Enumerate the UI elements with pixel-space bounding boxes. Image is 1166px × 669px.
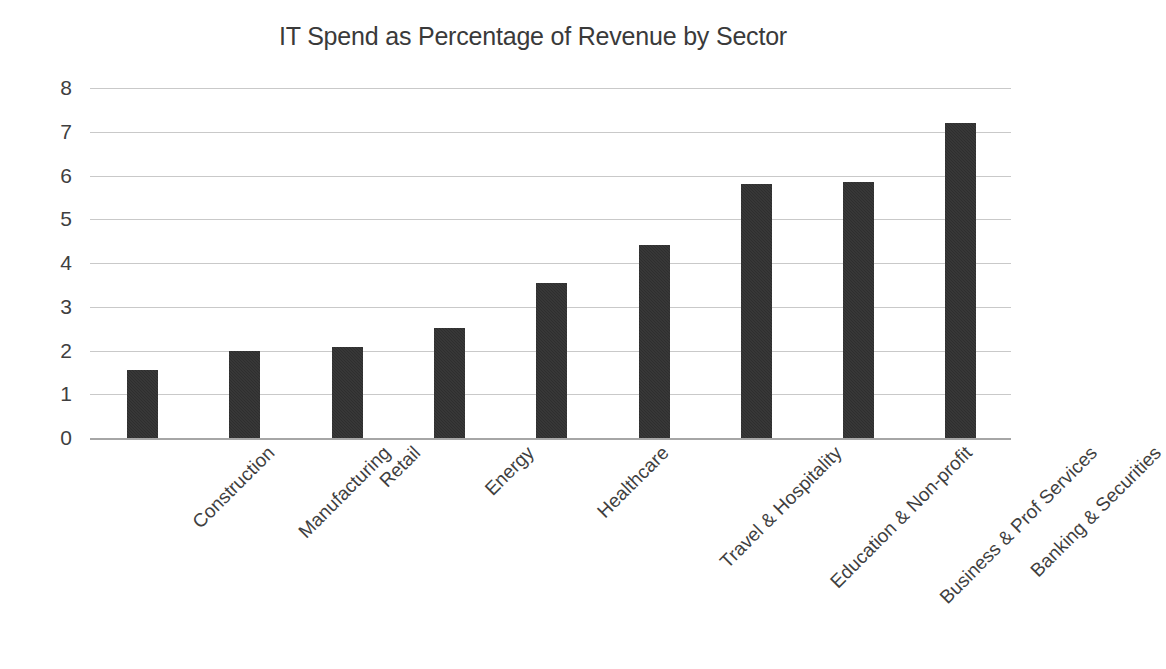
x-axis-line: [90, 438, 1011, 440]
gridline: [90, 88, 1011, 89]
x-axis-tick-label: Construction: [188, 442, 279, 533]
bar[interactable]: [741, 184, 772, 438]
y-axis-tick-label: 0: [42, 426, 72, 450]
y-axis-tick-label: 7: [42, 120, 72, 144]
bar[interactable]: [843, 182, 874, 438]
bar[interactable]: [434, 328, 465, 438]
bar[interactable]: [536, 283, 567, 438]
gridline: [90, 132, 1011, 133]
y-axis-tick-label: 5: [42, 207, 72, 231]
bar[interactable]: [127, 370, 158, 438]
bar[interactable]: [229, 351, 260, 439]
x-axis-tick-label: Travel & Hospitality: [716, 442, 847, 573]
bar[interactable]: [639, 245, 670, 438]
x-axis-tick-label: Energy: [481, 442, 539, 500]
x-axis-tick-label: Education & Non-profit: [826, 442, 977, 593]
y-axis-tick-label: 8: [42, 76, 72, 100]
chart-title: IT Spend as Percentage of Revenue by Sec…: [0, 22, 1066, 51]
plot-area: [90, 88, 1011, 438]
y-axis-tick-label: 4: [42, 251, 72, 275]
bar[interactable]: [332, 347, 363, 438]
x-axis-tick-label: Manufacturing: [294, 442, 395, 543]
x-axis-tick-label: Healthcare: [593, 442, 674, 523]
bar[interactable]: [945, 123, 976, 438]
y-axis-tick-label: 6: [42, 164, 72, 188]
y-axis-tick-labels: 876543210: [0, 0, 90, 669]
y-axis-tick-label: 1: [42, 382, 72, 406]
x-axis-tick-labels: ConstructionManufacturingRetailEnergyHea…: [90, 442, 1011, 642]
gridline: [90, 176, 1011, 177]
y-axis-tick-label: 3: [42, 295, 72, 319]
y-axis-tick-label: 2: [42, 339, 72, 363]
